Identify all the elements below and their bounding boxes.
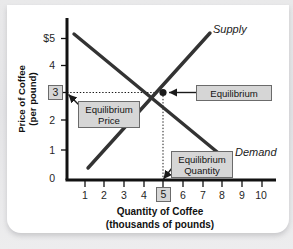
equilibrium-point <box>159 89 166 96</box>
y-axis-title: Price of Coffee (per pound) <box>16 44 38 154</box>
equilibrium-quantity-callout[interactable]: Equilibrium Quantity <box>171 151 233 178</box>
x-tick-label-2: 2 <box>97 190 111 201</box>
equilibrium-callout-text: Equilibrium <box>200 88 268 100</box>
x-tick-label-3: 3 <box>117 190 131 201</box>
x-axis-title-line1: Quantity of Coffee <box>60 206 260 219</box>
equilibrium-quantity-callout-line2: Quantity <box>175 165 229 176</box>
equilibrium-callout[interactable]: Equilibrium <box>196 85 272 101</box>
equilibrium-quantity-callout-line1: Equilibrium <box>175 154 229 165</box>
y-tick-label-5: $5 <box>33 33 55 44</box>
equilibrium-price-callout-line1: Equilibrium <box>82 104 136 115</box>
equilibrium-price-callout[interactable]: Equilibrium Price <box>78 101 140 128</box>
x-tick-label-6: 6 <box>176 190 190 201</box>
x-tick-label-1: 1 <box>78 190 92 201</box>
origin-label: 0 <box>33 173 55 184</box>
equilibrium-price-callout-line2: Price <box>82 115 136 126</box>
y-axis-title-line1: Price of Coffee <box>16 44 27 154</box>
x-tick-label-4: 4 <box>137 190 151 201</box>
x-axis-title: Quantity of Coffee (thousands of pounds) <box>60 206 260 231</box>
demand-curve-label: Demand <box>235 146 277 158</box>
y-tick-label-3-highlighted[interactable]: 3 <box>48 85 63 100</box>
x-tick-label-7: 7 <box>196 190 210 201</box>
y-axis-title-line2: (per pound) <box>27 44 38 154</box>
x-tick-label-9: 9 <box>235 190 249 201</box>
chart-figure: $5 4 3 2 1 0 Price of Coffee (per pound)… <box>0 0 293 249</box>
supply-curve-label: Supply <box>213 23 247 35</box>
x-tick-label-8: 8 <box>215 190 229 201</box>
x-axis-title-line2: (thousands of pounds) <box>60 219 260 232</box>
x-tick-label-10: 10 <box>254 190 268 201</box>
x-tick-label-5-highlighted[interactable]: 5 <box>156 187 171 202</box>
